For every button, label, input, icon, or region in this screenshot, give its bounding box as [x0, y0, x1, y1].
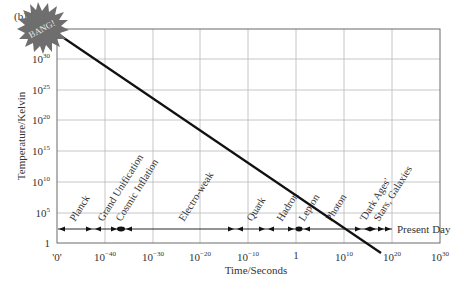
present-day-label: Present Day [397, 223, 451, 235]
x-tick-label: 10−40 [94, 250, 116, 263]
figure: (b) 1040 1030 1025 1020 1015 1010 105 1 … [0, 0, 464, 289]
y-axis-title: Temperature/Kelvin [15, 91, 27, 180]
era-label-electro-weak: Electro-weak [176, 169, 215, 223]
x-tick-label: 1020 [383, 250, 402, 263]
y-tick-label: 1010 [32, 175, 51, 188]
y-tick-label: 1015 [32, 144, 51, 157]
x-tick-label: 10−20 [189, 250, 211, 263]
x-tick-label: 1 [293, 249, 299, 261]
y-tick-label: 1030 [32, 52, 51, 65]
x-tick-label: 10−10 [237, 250, 259, 263]
era-label-lepton: Lepton [296, 191, 321, 223]
x-axis-title: Time/Seconds [225, 264, 288, 276]
x-tick-label: 10−30 [142, 250, 164, 263]
era-labels: Planck Grand Unification Cosmic Inflatio… [67, 152, 414, 223]
y-axis-ticks: 1040 1030 1025 1020 1015 1010 105 1 [32, 22, 51, 249]
y-tick-label: 1020 [32, 113, 51, 126]
x-axis-ticks: '0' 10−40 10−30 10−20 10−10 1 1010 1020 … [52, 249, 449, 263]
x-tick-label: 1030 [431, 250, 450, 263]
y-tick-label: 1 [45, 237, 51, 249]
era-label-photon: Photon [323, 191, 348, 223]
x-tick-label: '0' [52, 251, 61, 263]
y-tick-label: 1025 [32, 83, 51, 96]
x-tick-label: 1010 [335, 250, 354, 263]
y-tick-label: 105 [36, 206, 51, 219]
era-label-planck: Planck [67, 192, 92, 223]
